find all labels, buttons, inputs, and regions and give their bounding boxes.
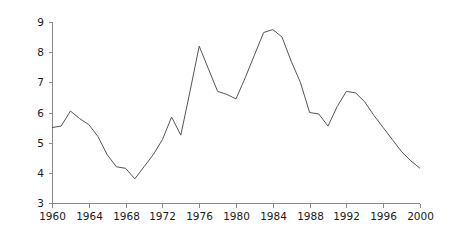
x-tick-label: 1980 <box>223 210 250 222</box>
x-tick-label: 1972 <box>149 210 176 222</box>
y-axis-tick-labels: 3456789 <box>37 16 44 209</box>
x-tick-label: 1996 <box>370 210 397 222</box>
chart-container: 3456789 19601964196819721976198019841988… <box>0 0 452 242</box>
y-tick-label: 7 <box>37 76 44 88</box>
data-series-group <box>52 30 420 179</box>
x-axis <box>53 204 421 208</box>
y-tick-label: 4 <box>37 167 44 179</box>
data-line-series-1 <box>52 30 420 179</box>
x-tick-label: 1988 <box>297 210 324 222</box>
y-tick-label: 8 <box>37 46 44 58</box>
x-axis-tick-labels: 1960196419681972197619801984198819921996… <box>39 210 434 222</box>
x-tick-label: 1992 <box>333 210 360 222</box>
y-tick-label: 6 <box>37 107 44 119</box>
x-tick-label: 1984 <box>260 210 287 222</box>
y-axis <box>49 22 53 204</box>
x-tick-label: 1976 <box>186 210 213 222</box>
x-tick-label: 2000 <box>407 210 434 222</box>
line-chart: 3456789 19601964196819721976198019841988… <box>0 0 452 242</box>
x-tick-label: 1964 <box>76 210 103 222</box>
x-tick-label: 1960 <box>39 210 66 222</box>
x-tick-label: 1968 <box>113 210 140 222</box>
y-tick-label: 3 <box>37 197 44 209</box>
y-tick-label: 5 <box>37 137 44 149</box>
y-tick-label: 9 <box>37 16 44 28</box>
